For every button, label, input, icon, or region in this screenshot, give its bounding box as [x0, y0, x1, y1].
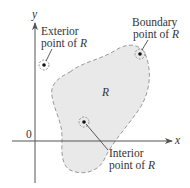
boundary-point-label-line2: point of R [133, 28, 179, 41]
region-label: R [101, 86, 109, 98]
exterior-point-label-line2: point of R [41, 37, 87, 50]
diagram-canvas: y x 0 R Exterior point of R Boundary poi… [0, 0, 190, 188]
origin-label: 0 [26, 128, 32, 140]
interior-point-label-line1: Interior [109, 147, 144, 159]
y-axis-label: y [31, 8, 38, 21]
exterior-point-label-line1: Exterior [41, 25, 79, 37]
x-axis-label: x [174, 134, 181, 146]
exterior-point [39, 49, 52, 70]
interior-point-label-line2: point of R [109, 159, 155, 172]
